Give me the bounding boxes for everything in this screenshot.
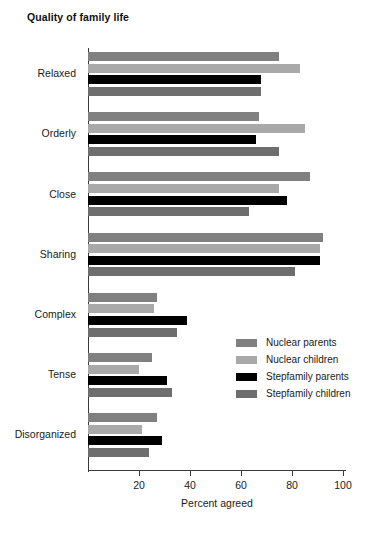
legend-swatch [236,390,257,398]
bar-group [88,293,343,339]
legend-label: Nuclear parents [266,337,337,348]
legend-item: Nuclear children [236,351,350,368]
category-label: Sharing [40,248,76,260]
bar [88,172,310,181]
bar-group [88,112,343,158]
bar [88,293,157,302]
category-label: Disorganized [15,428,76,440]
bar [88,365,139,374]
bar [88,207,249,216]
bar-group [88,233,343,279]
bar [88,256,320,265]
x-axis-tick-label: 60 [221,479,261,491]
legend-item: Nuclear parents [236,334,350,351]
legend-swatch [236,356,257,364]
x-axis-tick-label: 20 [119,479,159,491]
x-axis-tick-label: 80 [272,479,312,491]
plot-area [88,48,343,470]
bar [88,388,172,397]
category-label: Orderly [42,127,76,139]
x-axis-tick [241,470,242,476]
category-label: Tense [48,368,76,380]
legend-label: Stepfamily parents [266,371,349,382]
x-axis-title: Percent agreed [88,497,346,509]
category-label: Relaxed [37,67,76,79]
bar [88,425,142,434]
x-axis-tick-label: 40 [170,479,210,491]
legend-label: Stepfamily children [266,388,350,399]
bar [88,184,279,193]
bar [88,147,279,156]
chart-title: Quality of family life [27,11,129,23]
x-axis-tick [292,470,293,476]
legend-item: Stepfamily parents [236,368,350,385]
bar [88,413,157,422]
bar [88,436,162,445]
chart-legend: Nuclear parentsNuclear childrenStepfamil… [236,334,350,402]
legend-swatch [236,339,257,347]
bar [88,112,259,121]
bar-group [88,172,343,218]
bar [88,353,152,362]
legend-label: Nuclear children [266,354,338,365]
bar [88,87,261,96]
bar [88,267,295,276]
bar [88,196,287,205]
bar [88,448,149,457]
bar-group [88,52,343,98]
bar [88,304,154,313]
x-axis-tick-label: 100 [323,479,363,491]
bar [88,64,300,73]
bar [88,316,187,325]
legend-swatch [236,373,257,381]
legend-item: Stepfamily children [236,385,350,402]
x-axis-line [88,470,346,471]
bar [88,52,279,61]
bar [88,244,320,253]
bar [88,75,261,84]
bar-group [88,413,343,459]
category-label: Complex [35,308,76,320]
bar [88,135,256,144]
bar [88,124,305,133]
category-label: Close [49,188,76,200]
bar [88,233,323,242]
bar [88,328,177,337]
x-axis-tick [139,470,140,476]
x-axis-tick [343,470,344,476]
bar [88,376,167,385]
x-axis-tick [190,470,191,476]
